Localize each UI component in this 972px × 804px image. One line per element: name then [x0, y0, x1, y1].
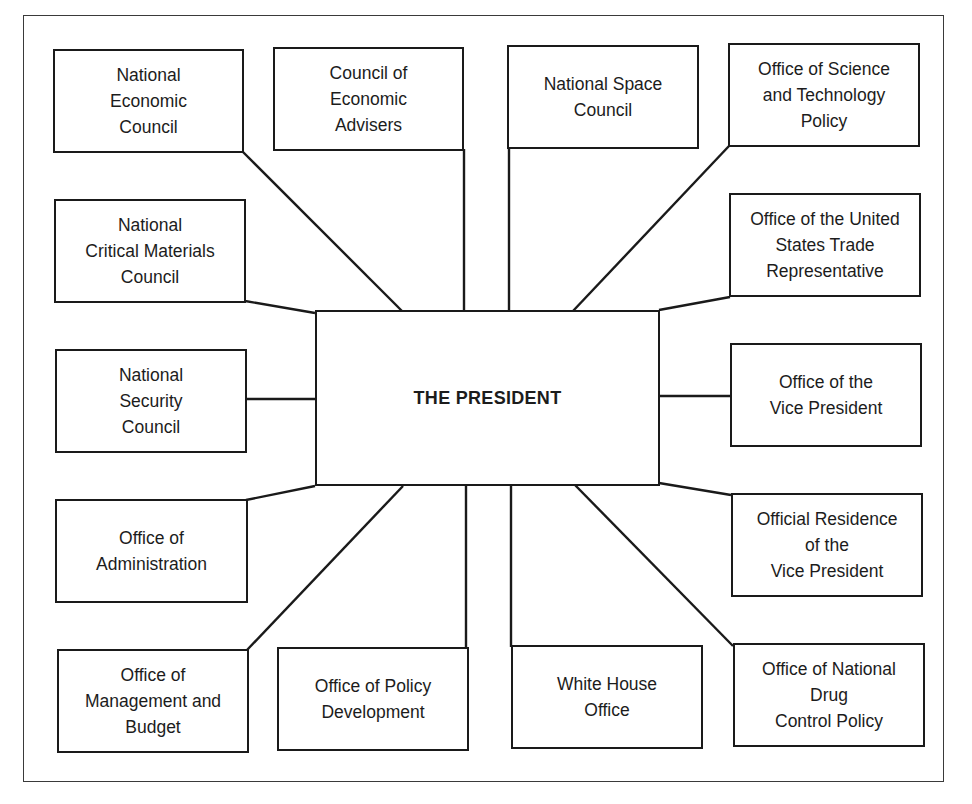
- box-national-security-council: National Security Council: [55, 349, 247, 453]
- box-label: Office of Science and Technology Policy: [758, 56, 890, 134]
- link-orvp: [659, 483, 731, 495]
- box-office-of-policy-development: Office of Policy Development: [277, 647, 469, 751]
- box-label: National Economic Council: [110, 62, 187, 140]
- link-ostp: [573, 146, 729, 311]
- link-omb: [247, 486, 403, 650]
- box-omb: Office of Management and Budget: [57, 649, 249, 753]
- box-office-of-vice-president: Office of the Vice President: [730, 343, 922, 447]
- box-label: Office of Management and Budget: [85, 662, 221, 740]
- box-label: Office of Policy Development: [315, 673, 431, 725]
- president-label: THE PRESIDENT: [414, 385, 562, 411]
- box-white-house-office: White House Office: [511, 645, 703, 749]
- box-national-economic-council: National Economic Council: [53, 49, 244, 153]
- president-box: THE PRESIDENT: [315, 310, 660, 486]
- box-official-residence-vp: Official Residence of the Vice President: [731, 493, 923, 597]
- box-label: Council of Economic Advisers: [330, 60, 408, 138]
- link-ncmc: [245, 301, 315, 313]
- box-ostp: Office of Science and Technology Policy: [728, 43, 920, 147]
- link-ustr: [659, 297, 730, 310]
- box-office-of-administration: Office of Administration: [55, 499, 248, 603]
- box-ondcp: Office of National Drug Control Policy: [733, 643, 925, 747]
- box-label: Office of the United States Trade Repres…: [750, 206, 900, 284]
- box-label: National Critical Materials Council: [85, 212, 214, 290]
- box-label: Office of the Vice President: [770, 369, 883, 421]
- box-label: National Security Council: [119, 362, 183, 440]
- link-nec: [243, 152, 402, 311]
- box-ustr: Office of the United States Trade Repres…: [729, 193, 921, 297]
- box-national-critical-materials-council: National Critical Materials Council: [54, 199, 246, 303]
- box-council-of-economic-advisers: Council of Economic Advisers: [273, 47, 464, 151]
- box-label: White House Office: [557, 671, 657, 723]
- link-ondcp: [574, 484, 733, 646]
- box-label: National Space Council: [544, 71, 663, 123]
- box-national-space-council: National Space Council: [507, 45, 699, 149]
- box-label: Office of National Drug Control Policy: [762, 656, 896, 734]
- box-label: Official Residence of the Vice President: [757, 506, 898, 584]
- link-oa: [246, 486, 315, 500]
- box-label: Office of Administration: [96, 525, 207, 577]
